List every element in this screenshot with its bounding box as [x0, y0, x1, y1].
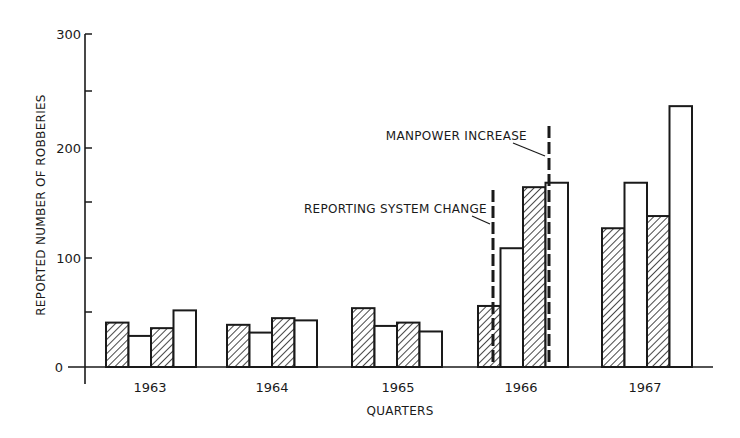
bar-1963-q4 — [174, 310, 197, 367]
bar-1963-q2 — [129, 336, 152, 367]
bar-1966-q3 — [523, 187, 546, 367]
year-label-1965: 1965 — [381, 380, 414, 395]
y-axis-label: REPORTED NUMBER OF ROBBERIES — [34, 94, 48, 316]
x-tick-labels: 1963 1964 1965 1966 1967 — [133, 380, 661, 395]
bar-1966-q2 — [501, 248, 524, 367]
bar-1964-q3 — [272, 318, 295, 367]
bar-1964-q1 — [227, 325, 250, 367]
bar-1967-q2 — [625, 183, 648, 367]
bars-group — [106, 106, 692, 367]
bar-1963-q3 — [151, 328, 174, 367]
bar-1965-q1 — [352, 308, 375, 367]
bar-1967-q3 — [647, 216, 670, 367]
bar-1964-q2 — [250, 333, 273, 367]
year-label-1967: 1967 — [628, 380, 661, 395]
y-tick-100: 100 — [56, 251, 81, 266]
y-tick-200: 200 — [56, 141, 81, 156]
y-tick-0: 0 — [55, 360, 63, 375]
bar-1965-q3 — [397, 323, 420, 367]
year-label-1963: 1963 — [133, 380, 166, 395]
y-tick-300: 300 — [56, 27, 81, 42]
bar-1967-q4 — [670, 106, 693, 367]
year-label-1966: 1966 — [504, 380, 537, 395]
year-label-1964: 1964 — [255, 380, 288, 395]
annotation-manpower-label: MANPOWER INCREASE — [386, 129, 527, 143]
y-axis — [68, 34, 92, 384]
annotation-reporting-label: REPORTING SYSTEM CHANGE — [304, 202, 487, 216]
bar-1965-q2 — [375, 326, 398, 367]
bar-1964-q4 — [295, 320, 318, 367]
x-axis-label: QUARTERS — [366, 404, 433, 418]
y-tick-labels: 300 200 100 0 — [55, 27, 81, 375]
bar-1965-q4 — [420, 331, 443, 367]
bar-1967-q1 — [602, 228, 625, 367]
bar-1966-q1 — [478, 306, 501, 367]
bar-1963-q1 — [106, 323, 129, 367]
robberies-bar-chart: 300 200 100 0 REPORTED NUMBER OF ROBBERI… — [0, 0, 740, 438]
